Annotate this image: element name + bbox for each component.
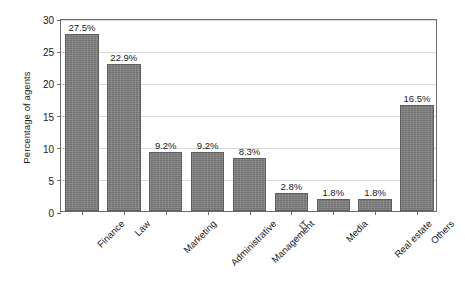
- y-axis-tick: [57, 52, 61, 53]
- bar-real-estate[interactable]: 1.8%: [358, 199, 392, 211]
- y-axis-tick-label: 5: [48, 175, 54, 186]
- bar-marketing[interactable]: 9.2%: [149, 152, 183, 211]
- x-axis-label-real-estate: Real estate: [392, 218, 434, 260]
- bar-management[interactable]: 8.3%: [233, 158, 267, 211]
- x-axis-tick: [124, 211, 125, 215]
- y-axis-tick: [57, 84, 61, 85]
- bar-value-label: 9.2%: [197, 140, 219, 151]
- y-axis-tick: [57, 180, 61, 181]
- bar-administrative[interactable]: 9.2%: [191, 152, 225, 211]
- x-axis-tick: [166, 211, 167, 215]
- bar-value-label: 1.8%: [322, 187, 344, 198]
- bar-value-label: 9.2%: [155, 140, 177, 151]
- bar-law[interactable]: 22.9%: [107, 64, 141, 211]
- bar-media[interactable]: 1.8%: [317, 199, 351, 211]
- x-axis-label-administrative: Administrative: [228, 218, 278, 268]
- gridline: [61, 20, 436, 21]
- bar-value-label: 22.9%: [110, 52, 137, 63]
- bar-value-label: 16.5%: [404, 93, 431, 104]
- y-axis-tick-label: 20: [43, 79, 54, 90]
- x-axis-label-marketing: Marketing: [181, 218, 218, 255]
- x-axis-tick: [82, 211, 83, 215]
- y-axis-tick-label: 15: [43, 111, 54, 122]
- y-axis-tick-label: 30: [43, 15, 54, 26]
- bar-value-label: 2.8%: [281, 181, 303, 192]
- bar-it[interactable]: 2.8%: [275, 193, 309, 211]
- y-axis-tick: [57, 116, 61, 117]
- y-axis-tick: [57, 213, 61, 214]
- y-axis-title: Percentage of agents: [18, 10, 36, 225]
- bar-chart-figure: Percentage of agents 05101520253027.5%22…: [0, 0, 465, 281]
- x-axis-tick: [333, 211, 334, 215]
- y-axis-tick-label: 10: [43, 143, 54, 154]
- y-axis-tick: [57, 20, 61, 21]
- bar-value-label: 27.5%: [68, 22, 95, 33]
- bar-value-label: 1.8%: [364, 187, 386, 198]
- y-axis-tick: [57, 148, 61, 149]
- x-axis-tick: [208, 211, 209, 215]
- x-axis-label-others: Others: [428, 218, 456, 246]
- x-axis-tick: [291, 211, 292, 215]
- x-axis-tick: [375, 211, 376, 215]
- y-axis-tick-label: 25: [43, 47, 54, 58]
- bar-finance[interactable]: 27.5%: [65, 34, 99, 211]
- plot-area: 05101520253027.5%22.9%9.2%9.2%8.3%2.8%1.…: [60, 19, 437, 212]
- y-axis-tick-label: 0: [48, 208, 54, 219]
- bar-others[interactable]: 16.5%: [400, 105, 434, 211]
- x-axis-label-finance: Finance: [95, 218, 127, 250]
- x-axis-tick: [250, 211, 251, 215]
- x-axis-tick: [417, 211, 418, 215]
- x-axis-label-law: Law: [132, 218, 152, 238]
- x-axis-label-media: Media: [344, 218, 370, 244]
- bar-value-label: 8.3%: [239, 146, 261, 157]
